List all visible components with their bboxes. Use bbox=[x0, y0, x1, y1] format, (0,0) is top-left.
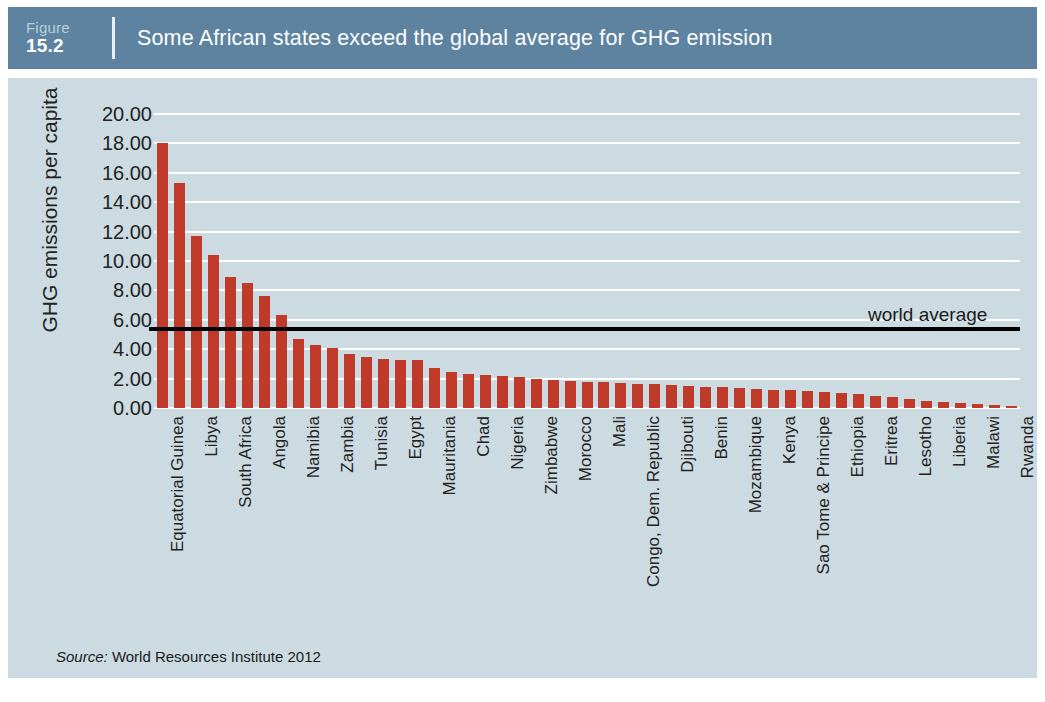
x-tick-label: Congo, Dem. Republic bbox=[644, 416, 664, 587]
figure-root: Figure 15.2 Some African states exceed t… bbox=[0, 0, 1045, 702]
x-tick-label: Kenya bbox=[780, 416, 800, 464]
bar bbox=[412, 360, 423, 408]
source-label: Source: bbox=[56, 648, 108, 665]
world-average-label: world average bbox=[868, 304, 987, 326]
figure-number: 15.2 bbox=[26, 36, 112, 56]
x-tick-label: Sao Tome & Principe bbox=[814, 416, 834, 574]
bar bbox=[191, 236, 202, 408]
bar bbox=[598, 382, 609, 408]
x-tick-label: Liberia bbox=[950, 416, 970, 467]
x-tick-label: Benin bbox=[712, 416, 732, 459]
figure-banner: Figure 15.2 Some African states exceed t… bbox=[8, 7, 1037, 69]
y-tick-label: 18.00 bbox=[102, 132, 152, 155]
bar bbox=[649, 384, 660, 408]
bar-series bbox=[154, 114, 1020, 408]
bar bbox=[972, 404, 983, 408]
bar bbox=[853, 394, 864, 408]
figure-title: Some African states exceed the global av… bbox=[137, 26, 773, 51]
x-tick-label: Zambia bbox=[338, 416, 358, 473]
bar bbox=[582, 382, 593, 408]
bar bbox=[565, 381, 576, 408]
y-tick-label: 14.00 bbox=[102, 191, 152, 214]
bar bbox=[293, 339, 304, 408]
bar bbox=[497, 376, 508, 408]
x-tick-label: South Africa bbox=[236, 416, 256, 508]
bar bbox=[819, 392, 830, 408]
y-tick-label: 6.00 bbox=[113, 308, 152, 331]
x-tick-label: Mozambique bbox=[746, 416, 766, 513]
bar bbox=[700, 387, 711, 408]
x-tick-label: Egypt bbox=[406, 416, 426, 459]
bar bbox=[531, 379, 542, 408]
bar bbox=[208, 255, 219, 408]
x-tick-label: Angola bbox=[270, 416, 290, 469]
bar bbox=[157, 143, 168, 408]
bar bbox=[870, 396, 881, 408]
x-tick-label: Eritrea bbox=[882, 416, 902, 466]
world-average-line bbox=[149, 327, 1020, 331]
bar bbox=[463, 374, 474, 408]
y-axis-tick-labels: 0.002.004.006.008.0010.0012.0014.0016.00… bbox=[66, 114, 152, 408]
bar bbox=[717, 387, 728, 408]
y-tick-label: 8.00 bbox=[113, 279, 152, 302]
x-tick-label: Mali bbox=[610, 416, 630, 447]
x-tick-label: Djibouti bbox=[678, 416, 698, 473]
x-tick-label: Rwanda bbox=[1018, 416, 1038, 478]
bar bbox=[938, 402, 949, 408]
bar bbox=[921, 401, 932, 408]
y-tick-label: 10.00 bbox=[102, 250, 152, 273]
bar bbox=[955, 403, 966, 408]
source-text: World Resources Institute 2012 bbox=[112, 648, 321, 665]
x-tick-label: Nigeria bbox=[508, 416, 528, 470]
bar bbox=[174, 183, 185, 408]
bar bbox=[480, 375, 491, 408]
y-tick-label: 12.00 bbox=[102, 220, 152, 243]
figure-word: Figure bbox=[26, 20, 112, 36]
bar bbox=[242, 283, 253, 408]
bar bbox=[785, 390, 796, 408]
bar bbox=[378, 359, 389, 408]
bar bbox=[310, 345, 321, 408]
chart-panel: GHG emissions per capita 0.002.004.006.0… bbox=[8, 78, 1037, 678]
x-tick-label: Lesotho bbox=[916, 416, 936, 477]
x-tick-label: Chad bbox=[474, 416, 494, 457]
bar bbox=[615, 383, 626, 408]
bar bbox=[734, 388, 745, 408]
bar bbox=[344, 354, 355, 408]
bar bbox=[327, 348, 338, 408]
y-tick-label: 2.00 bbox=[113, 367, 152, 390]
bar bbox=[768, 390, 779, 408]
bar bbox=[904, 399, 915, 408]
x-tick-label: Tunisia bbox=[372, 416, 392, 470]
x-tick-label: Libya bbox=[202, 416, 222, 457]
bar bbox=[548, 380, 559, 408]
bar bbox=[836, 393, 847, 408]
bar bbox=[1006, 406, 1017, 408]
plot-area: world average bbox=[154, 114, 1020, 408]
bar bbox=[666, 385, 677, 408]
y-tick-label: 16.00 bbox=[102, 161, 152, 184]
bar bbox=[429, 368, 440, 408]
source-note: Source: World Resources Institute 2012 bbox=[56, 648, 321, 665]
bar bbox=[361, 357, 372, 408]
bar bbox=[802, 391, 813, 408]
bar bbox=[632, 384, 643, 408]
x-tick-label: Equatorial Guinea bbox=[168, 416, 188, 552]
y-tick-label: 20.00 bbox=[102, 103, 152, 126]
bar bbox=[751, 389, 762, 408]
x-tick-label: Mauritania bbox=[440, 416, 460, 495]
x-tick-label: Malawi bbox=[984, 416, 1004, 469]
bar bbox=[225, 277, 236, 408]
x-tick-label: Morocco bbox=[576, 416, 596, 481]
bar bbox=[887, 397, 898, 408]
figure-number-block: Figure 15.2 bbox=[26, 20, 112, 56]
y-tick-label: 4.00 bbox=[113, 338, 152, 361]
bar bbox=[683, 386, 694, 408]
bar bbox=[514, 377, 525, 408]
x-tick-label: Namibia bbox=[304, 416, 324, 478]
bar bbox=[259, 296, 270, 408]
y-axis-title: GHG emissions per capita bbox=[38, 60, 62, 360]
x-tick-label: Ethiopia bbox=[848, 416, 868, 477]
bar bbox=[446, 372, 457, 408]
x-axis-tick-labels: Equatorial GuineaLibyaSouth AfricaAngola… bbox=[154, 412, 1020, 642]
